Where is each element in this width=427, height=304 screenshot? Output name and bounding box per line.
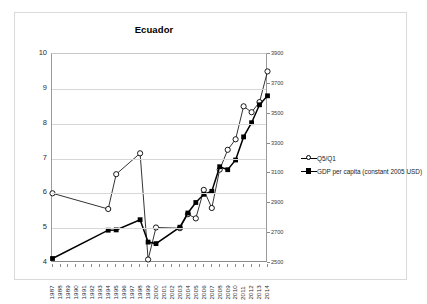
x-axis-tick-mark [60,264,61,267]
left-axis-ticks: 45678910 [15,13,47,304]
x-axis-tick-label: 2010 [231,285,238,300]
x-axis-tick-mark [67,264,68,267]
right-axis-tick-label: 3500 [271,110,305,116]
x-axis-tick-label: 1991 [80,285,87,300]
left-axis-tick-label: 9 [17,84,47,92]
right-axis-tick-mark [267,53,270,54]
x-axis-tick-mark [83,264,84,267]
x-axis-tick-mark [187,264,188,267]
x-axis-tick-mark [52,264,53,267]
x-axis-tick-mark [251,264,252,267]
right-axis-tick-mark [267,202,270,203]
x-axis-tick-label: 1997 [128,285,135,300]
x-axis-tick-mark [115,264,116,267]
right-axis-tick-label: 3300 [271,140,305,146]
x-axis-tick-mark [171,264,172,267]
x-axis-tick-mark [211,264,212,267]
chart-legend: Q5/Q1 GDP per capita (constant 2005 USD) [301,152,427,178]
x-axis-tick-label: 2002 [168,285,175,300]
x-axis-tick-mark [99,264,100,267]
x-axis-tick-label: 1993 [96,285,103,300]
left-axis-tick-label: 10 [17,49,47,57]
data-point-circle [138,151,143,156]
right-axis-tick-mark [267,113,270,114]
right-axis-tick-mark [267,83,270,84]
series-gdp [50,93,270,261]
chart-container: Ecuador 45678910 25002700290031003300350… [14,12,407,280]
x-axis-tick-label: 1988 [56,285,63,300]
data-point-circle [233,137,238,142]
data-point-square [217,164,222,169]
x-axis-tick-mark [123,264,124,267]
x-axis-tick-label: 2008 [216,285,223,300]
chart-title: Ecuador [15,24,293,35]
legend-label-gdp: GDP per capita (constant 2005 USD) [317,168,422,176]
x-axis-tick-mark [163,264,164,267]
x-axis-tick-mark [107,264,108,267]
data-point-circle [201,187,206,192]
filled-square-marker-icon [301,166,317,177]
x-axis-tick-label: 2000 [152,285,159,300]
gridline [52,193,266,194]
left-axis-tick-label: 7 [17,154,47,162]
data-point-circle [225,147,230,152]
x-axis-ticks: 1987198819891990199119921993199419951996… [51,264,267,300]
left-axis-tick-label: 5 [17,223,47,231]
gridline [52,89,266,90]
data-point-square [146,240,151,245]
open-circle-marker-icon [301,153,317,164]
plot-area [51,53,267,262]
data-point-square [186,211,191,216]
data-point-circle [114,172,119,177]
right-axis-tick-mark [267,262,270,263]
x-axis-tick-label: 1999 [144,285,151,300]
x-axis-tick-mark [227,264,228,267]
x-axis-tick-mark [195,264,196,267]
right-axis-tick-label: 2500 [271,259,305,265]
x-axis-tick-mark [147,264,148,267]
x-axis-tick-mark [267,264,268,267]
x-axis-tick-label: 1987 [48,285,55,300]
legend-item-q5q1[interactable]: Q5/Q1 [301,152,427,165]
x-axis-tick-mark [243,264,244,267]
data-point-square [257,102,262,107]
data-point-square [265,93,270,98]
left-axis-tick-label: 6 [17,188,47,196]
data-point-circle [193,216,198,221]
data-point-square [241,135,246,140]
x-axis-tick-label: 1998 [136,285,143,300]
x-axis-tick-mark [179,264,180,267]
x-axis-tick-label: 2005 [192,285,199,300]
x-axis-tick-label: 2013 [255,285,262,300]
data-point-square [193,200,198,205]
data-point-circle [146,257,151,262]
left-axis-tick-label: 4 [17,258,47,266]
right-axis-tick-mark [267,232,270,233]
x-axis-tick-label: 2003 [176,285,183,300]
x-axis-tick-label: 2014 [263,285,270,300]
legend-item-gdp[interactable]: GDP per capita (constant 2005 USD) [301,165,427,178]
data-point-square [225,167,230,172]
right-axis-tick-label: 2700 [271,229,305,235]
series-line [53,96,268,259]
x-axis-tick-label: 1994 [104,285,111,300]
series-q5q1 [50,69,270,262]
data-point-circle [249,110,254,115]
x-axis-tick-label: 2006 [200,285,207,300]
x-axis-tick-label: 1989 [64,285,71,300]
right-axis-tick-label: 3900 [271,50,305,56]
data-point-circle [106,206,111,211]
x-axis-tick-label: 1992 [88,285,95,300]
x-axis-tick-mark [203,264,204,267]
x-axis-tick-mark [131,264,132,267]
x-axis-tick-mark [75,264,76,267]
gridline [52,159,266,160]
x-axis-tick-label: 2011 [239,286,246,300]
right-axis-tick-mark [267,143,270,144]
right-axis-tick-label: 3100 [271,169,305,175]
left-axis-tick-label: 8 [17,119,47,127]
x-axis-tick-label: 2001 [160,285,167,300]
x-axis-tick-label: 1990 [72,285,79,300]
data-point-circle [241,104,246,109]
legend-label-q5q1: Q5/Q1 [317,155,336,163]
